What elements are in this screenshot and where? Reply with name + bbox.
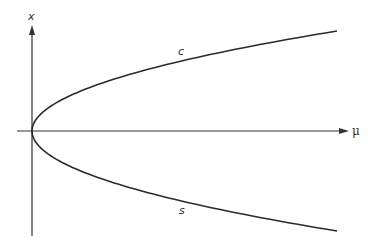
upper-branch-label: c (178, 45, 184, 58)
vertical-axis-label: x (27, 10, 35, 23)
horizontal-axis-label: μ (352, 124, 360, 138)
horizontal-axis-arrow-icon (339, 128, 349, 134)
vertical-axis-arrow-icon (29, 25, 35, 35)
upper-branch-curve (32, 31, 337, 131)
lower-branch-label: s (179, 204, 185, 217)
bifurcation-diagram: x μ c s (0, 0, 381, 244)
